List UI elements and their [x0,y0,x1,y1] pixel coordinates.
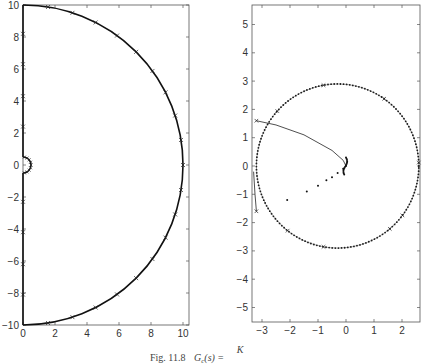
svg-text:0: 0 [242,161,248,172]
svg-text:−5: −5 [237,302,249,313]
svg-text:−10: −10 [2,320,19,331]
svg-text:−2: −2 [237,217,249,228]
svg-text:6: 6 [13,64,19,75]
svg-text:2: 2 [52,328,58,339]
svg-text:0: 0 [20,328,26,339]
right-plot: −3−2−1012−5−4−3−2−1012345 [237,5,421,336]
svg-text:4: 4 [13,96,19,107]
figure-caption: Fig. 11.8 Gc(s) = K [150,344,245,364]
svg-text:2: 2 [13,128,19,139]
left-plot: 0246810−10−8−6−4−20246810 [2,0,189,339]
svg-text:1: 1 [371,325,377,336]
svg-text:4: 4 [242,47,248,58]
svg-text:8: 8 [13,32,19,43]
svg-text:2: 2 [242,104,248,115]
svg-text:2: 2 [399,325,405,336]
svg-text:6: 6 [116,328,122,339]
svg-text:4: 4 [84,328,90,339]
right-plot-frame [252,5,420,322]
svg-text:10: 10 [177,328,189,339]
svg-text:−6: −6 [8,256,20,267]
figure-canvas: 0246810−10−8−6−4−20246810 −3−2−1012−5−4−… [0,0,423,364]
left-contour [21,5,185,325]
svg-text:−4: −4 [237,274,249,285]
svg-text:10: 10 [8,0,20,11]
svg-text:−3: −3 [256,325,268,336]
right-contour [254,83,421,249]
svg-text:−3: −3 [237,245,249,256]
svg-text:−2: −2 [284,325,296,336]
svg-text:−2: −2 [8,192,20,203]
left-plot-frame [23,5,189,325]
svg-text:0: 0 [343,325,349,336]
svg-text:3: 3 [242,76,248,87]
svg-text:−1: −1 [312,325,324,336]
svg-text:8: 8 [148,328,154,339]
svg-text:−1: −1 [237,189,249,200]
svg-text:0: 0 [13,160,19,171]
right-ticks: −3−2−1012−5−4−3−2−1012345 [237,5,420,336]
svg-text:−8: −8 [8,288,20,299]
svg-text:1: 1 [242,132,248,143]
svg-text:−4: −4 [8,224,20,235]
svg-text:5: 5 [242,19,248,30]
